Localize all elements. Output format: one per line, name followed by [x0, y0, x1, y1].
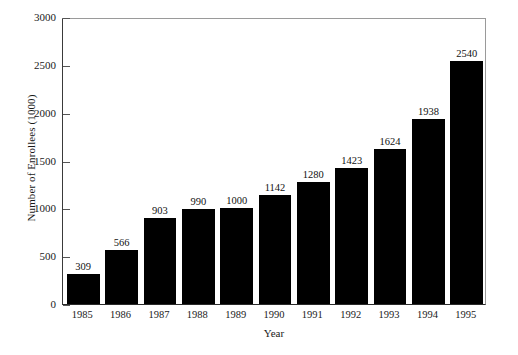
y-axis-tick-label: 2000: [34, 107, 56, 119]
bar-slot: 903: [144, 19, 177, 304]
x-axis-tick-label: 1985: [63, 309, 101, 320]
bar-value-label: 1000: [208, 195, 265, 206]
bar[interactable]: [450, 61, 483, 304]
bar-value-label: 566: [93, 237, 150, 248]
y-axis-tick-label: 1500: [34, 155, 56, 167]
bar-slot: 1938: [412, 19, 445, 304]
bar-slot: 1423: [335, 19, 368, 304]
plot-area: 050010001500200025003000 309566903990100…: [62, 18, 486, 305]
y-axis-tick-label: 0: [51, 298, 57, 310]
bar-series: 3095669039901000114212801423162419382540: [64, 19, 484, 304]
x-axis-tick-label: 1986: [101, 309, 139, 320]
bar[interactable]: [144, 218, 177, 304]
x-axis-tick-label: 1987: [140, 309, 178, 320]
bar-value-label: 1280: [285, 169, 342, 180]
bar[interactable]: [105, 250, 138, 304]
y-axis-tick-label: 500: [40, 250, 57, 262]
bar[interactable]: [374, 149, 407, 304]
x-axis-tick-label: 1989: [216, 309, 254, 320]
y-axis-tick-label: 2500: [34, 59, 56, 71]
bar-slot: 309: [67, 19, 100, 304]
y-axis-tick-label: 3000: [34, 11, 56, 23]
bar-value-label: 1423: [323, 155, 380, 166]
x-axis-title: Year: [62, 327, 486, 339]
bar-value-label: 2540: [438, 48, 495, 59]
x-axis-tick-label: 1992: [332, 309, 370, 320]
y-axis-tick-mark: [63, 305, 70, 306]
bar-value-label: 1624: [362, 136, 419, 147]
bar-value-label: 1142: [247, 182, 304, 193]
bar[interactable]: [67, 274, 100, 304]
bar[interactable]: [220, 208, 253, 304]
x-axis-tick-label: 1995: [447, 309, 485, 320]
x-axis-tick-label: 1991: [293, 309, 331, 320]
bar[interactable]: [335, 168, 368, 304]
bar-slot: 1142: [259, 19, 292, 304]
bar[interactable]: [297, 182, 330, 304]
bar-value-label: 1938: [400, 106, 457, 117]
bar[interactable]: [259, 195, 292, 304]
bar-slot: 566: [105, 19, 138, 304]
x-axis-tick-label: 1988: [178, 309, 216, 320]
bar-value-label: 309: [55, 261, 112, 272]
bar-slot: 1000: [220, 19, 253, 304]
bar-slot: 990: [182, 19, 215, 304]
x-axis-tick-label: 1994: [408, 309, 446, 320]
bar[interactable]: [412, 119, 445, 304]
x-axis-tick-label: 1990: [255, 309, 293, 320]
x-axis-tick-label: 1993: [370, 309, 408, 320]
bar-slot: 1624: [374, 19, 407, 304]
bar-slot: 2540: [450, 19, 483, 304]
bar-chart-figure: Number of Enrollees (1000) 0500100015002…: [0, 0, 518, 355]
y-axis-tick-label: 1000: [34, 202, 56, 214]
bar[interactable]: [182, 209, 215, 304]
